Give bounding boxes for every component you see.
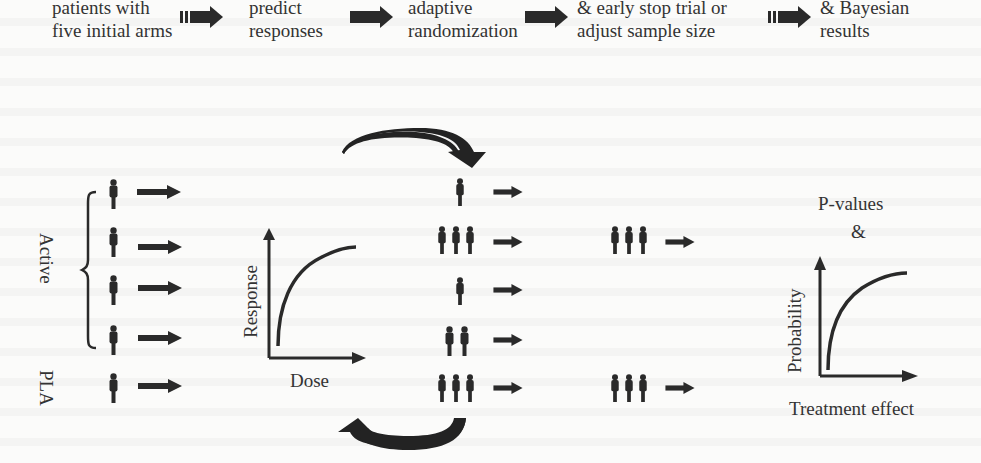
step-line-2: results [820, 19, 909, 42]
arrow-right-icon [491, 382, 525, 394]
probability-chart [812, 256, 924, 386]
process-step-4: & early stop trial or adjust sample size [577, 0, 727, 42]
arrow-right-icon [138, 240, 182, 254]
probability-ylabel: Probability [784, 289, 806, 373]
person-icon [108, 227, 119, 257]
person-icon [108, 325, 119, 355]
person-icon [108, 179, 119, 209]
result-title-line-2: & [851, 221, 866, 243]
arrow-right-icon [663, 382, 697, 394]
person-icon [451, 374, 461, 402]
step-line-2: randomization [408, 19, 518, 42]
arrow-right-icon [491, 236, 525, 248]
person-icon [624, 226, 634, 254]
person-icon [108, 275, 119, 305]
step-line-1: & early stop trial or [577, 0, 727, 19]
process-step-2: predict responses [249, 0, 323, 42]
dose-response-ylabel: Response [240, 265, 262, 338]
person-icon [465, 226, 475, 254]
process-step-5: & Bayesian results [820, 0, 909, 42]
process-step-3: adaptive randomization [408, 0, 518, 42]
person-icon [638, 226, 648, 254]
arrow-right-icon [138, 379, 182, 393]
active-label: Active [35, 233, 57, 284]
arrow-right-icon [138, 331, 182, 345]
person-icon [459, 326, 470, 356]
block-arrow-icon [350, 6, 394, 28]
person-icon [610, 226, 620, 254]
step-line-2: adjust sample size [577, 19, 727, 42]
arrow-right-icon [137, 185, 181, 199]
person-icon [455, 178, 465, 206]
person-icon [108, 373, 119, 403]
block-arrow-icon [768, 6, 812, 28]
process-step-1: patients with five initial arms [52, 0, 172, 42]
person-icon [455, 277, 465, 305]
person-icon [451, 226, 461, 254]
step-line-2: five initial arms [52, 19, 172, 42]
person-icon [624, 374, 634, 402]
step-line-1: & Bayesian [820, 0, 909, 19]
block-arrow-icon [180, 6, 224, 28]
dose-response-xlabel: Dose [290, 370, 329, 392]
block-arrow-icon [525, 6, 569, 28]
arrow-right-icon [491, 284, 525, 296]
person-icon [444, 326, 455, 356]
person-icon [437, 374, 447, 402]
step-line-2: responses [249, 19, 323, 42]
person-icon [610, 374, 620, 402]
arrow-right-icon [491, 186, 525, 198]
person-icon [437, 226, 447, 254]
placebo-label: PLA [35, 370, 57, 406]
step-line-1: adaptive [408, 0, 518, 19]
arrow-right-icon [663, 236, 697, 248]
result-title-line-1: P-values [818, 193, 883, 215]
arrow-right-icon [491, 334, 525, 346]
treatment-effect-xlabel: Treatment effect [789, 398, 914, 420]
person-icon [638, 374, 648, 402]
cycle-arrow-bottom-icon [338, 410, 470, 450]
step-line-1: predict [249, 0, 323, 19]
arrow-right-icon [138, 281, 182, 295]
cycle-arrow-top-icon [340, 130, 490, 170]
person-icon [465, 374, 475, 402]
step-line-1: patients with [52, 0, 172, 19]
active-bracket-icon [80, 190, 100, 350]
dose-response-chart [260, 228, 370, 368]
